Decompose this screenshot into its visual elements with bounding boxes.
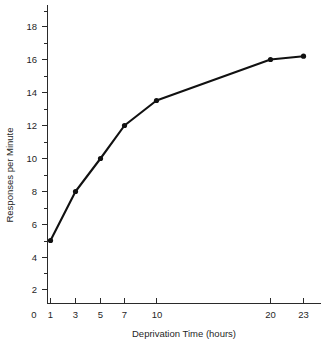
data-point-markers xyxy=(48,54,306,244)
x-axis-tick-labels: 0 1 3 5 7 10 20 23 xyxy=(31,309,308,320)
x-tick-label: 23 xyxy=(298,309,309,320)
y-tick-label: 18 xyxy=(26,21,37,32)
y-tick-label: 16 xyxy=(26,54,37,65)
data-point xyxy=(154,98,159,103)
x-axis-title: Deprivation Time (hours) xyxy=(132,328,236,339)
y-tick-label: 8 xyxy=(32,186,37,197)
x-tick-label: 7 xyxy=(122,309,127,320)
y-tick-label: 4 xyxy=(32,252,37,263)
data-point xyxy=(301,54,306,59)
chart-container: 2 4 6 8 10 12 14 16 18 0 1 3 5 7 10 20 2… xyxy=(0,0,328,347)
data-point xyxy=(122,123,127,128)
data-point xyxy=(73,189,78,194)
y-tick-label: 2 xyxy=(32,284,37,295)
x-tick-label-origin: 0 xyxy=(31,309,36,320)
x-tick-label: 20 xyxy=(265,309,276,320)
x-tick-label: 1 xyxy=(48,309,53,320)
data-point xyxy=(48,238,53,243)
data-point xyxy=(268,57,273,62)
x-tick-label: 10 xyxy=(152,309,163,320)
line-chart: 2 4 6 8 10 12 14 16 18 0 1 3 5 7 10 20 2… xyxy=(0,0,328,347)
y-tick-label: 14 xyxy=(26,87,37,98)
y-axis-minor-ticks xyxy=(44,12,48,274)
y-tick-label: 10 xyxy=(26,153,37,164)
x-tick-label: 5 xyxy=(98,309,103,320)
y-axis-major-ticks xyxy=(42,27,48,290)
y-tick-label: 12 xyxy=(26,120,37,131)
y-tick-label: 6 xyxy=(32,219,37,230)
x-axis-ticks xyxy=(51,298,304,304)
data-series-line xyxy=(51,56,304,240)
y-axis-tick-labels: 2 4 6 8 10 12 14 16 18 xyxy=(26,21,37,295)
data-point xyxy=(98,156,103,161)
y-axis-title: Responses per Minute xyxy=(4,127,15,222)
x-tick-label: 3 xyxy=(73,309,78,320)
